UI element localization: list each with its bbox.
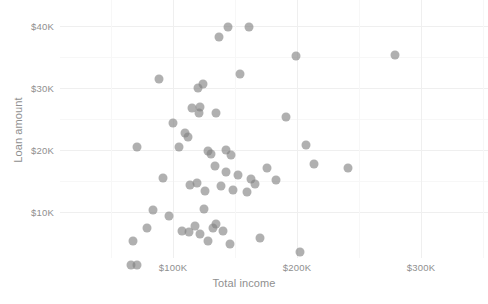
data-point — [193, 83, 202, 92]
data-point — [207, 150, 216, 159]
data-point — [165, 212, 174, 221]
gridline-vertical-minor — [111, 0, 112, 258]
data-point — [186, 180, 195, 189]
data-point — [281, 112, 290, 121]
data-point — [169, 119, 178, 128]
data-point — [291, 52, 300, 61]
data-point — [295, 247, 304, 256]
x-axis-title: Total income — [0, 277, 488, 289]
y-axis-tick-label: $30K — [0, 82, 54, 93]
y-axis-title: Loan amount — [12, 55, 24, 205]
gridline-horizontal — [60, 150, 488, 151]
data-point — [222, 167, 231, 176]
data-point — [200, 205, 209, 214]
y-axis-tick-label: $40K — [0, 21, 54, 32]
gridline-horizontal — [60, 88, 488, 89]
plot-area — [0, 0, 488, 258]
data-point — [211, 162, 220, 171]
gridline-vertical-minor — [483, 0, 484, 258]
data-point — [203, 237, 212, 246]
data-point — [185, 227, 194, 236]
data-point — [236, 70, 245, 79]
gridline-horizontal-minor — [60, 119, 488, 120]
gridline-horizontal — [60, 26, 488, 27]
data-point — [250, 179, 259, 188]
scatter-chart: Loan amount Total income $10K$20K$30K$40… — [0, 0, 488, 304]
data-point — [271, 176, 280, 185]
data-point — [212, 109, 221, 118]
data-point — [228, 185, 237, 194]
data-point — [233, 171, 242, 180]
data-point — [214, 32, 223, 41]
data-point — [343, 164, 352, 173]
data-point — [149, 206, 158, 215]
data-point — [195, 109, 204, 118]
data-point — [218, 227, 227, 236]
data-point — [301, 140, 310, 149]
data-point — [212, 219, 221, 228]
gridline-vertical — [297, 0, 298, 258]
x-axis-tick-label: $200K — [283, 262, 311, 273]
data-point — [310, 159, 319, 168]
data-point — [155, 75, 164, 84]
data-point — [159, 174, 168, 183]
data-point — [143, 223, 152, 232]
gridline-vertical-minor — [359, 0, 360, 258]
x-axis-tick-label: $300K — [407, 262, 435, 273]
data-point — [244, 22, 253, 31]
gridline-vertical — [421, 0, 422, 258]
data-point — [263, 164, 272, 173]
data-point — [243, 188, 252, 197]
data-point — [226, 239, 235, 248]
data-point — [133, 260, 142, 269]
data-point — [196, 229, 205, 238]
y-axis-tick-label: $10K — [0, 206, 54, 217]
x-axis-tick-label: $100K — [159, 262, 187, 273]
data-point — [391, 51, 400, 60]
data-point — [227, 151, 236, 160]
data-point — [133, 142, 142, 151]
data-point — [183, 132, 192, 141]
data-point — [217, 182, 226, 191]
data-point — [129, 237, 138, 246]
gridline-vertical-minor — [235, 0, 236, 258]
y-axis-tick-label: $20K — [0, 144, 54, 155]
data-point — [223, 22, 232, 31]
data-point — [255, 233, 264, 242]
data-point — [201, 187, 210, 196]
gridline-vertical — [173, 0, 174, 258]
data-point — [175, 143, 184, 152]
gridline-horizontal-minor — [60, 57, 488, 58]
gridline-horizontal — [60, 212, 488, 213]
